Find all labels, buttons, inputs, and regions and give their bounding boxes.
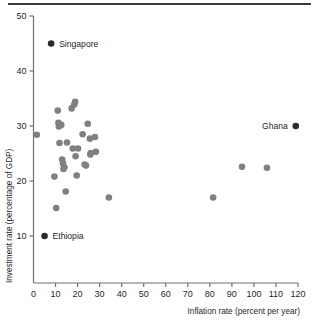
scatter-plot-figure: 10203040500102030405060708090100110120 S… xyxy=(0,0,318,320)
x-axis-tick-label: 90 xyxy=(227,289,237,299)
axes: 10203040500102030405060708090100110120 xyxy=(16,11,305,299)
x-axis-tick-label: 70 xyxy=(183,289,193,299)
data-point xyxy=(51,173,58,180)
x-axis-tick-label: 110 xyxy=(269,289,283,299)
data-point xyxy=(62,188,69,195)
data-point xyxy=(72,99,79,106)
data-point xyxy=(73,172,80,179)
x-axis-tick-label: 120 xyxy=(290,289,305,299)
data-point xyxy=(64,139,71,146)
data-point xyxy=(83,162,90,169)
data-point xyxy=(106,194,113,201)
x-axis-tick-label: 0 xyxy=(31,289,36,299)
data-point-label: Singapore xyxy=(59,39,98,49)
x-axis-title: Inflation rate (percent per year) xyxy=(188,307,301,316)
y-axis-tick-label: 10 xyxy=(16,231,26,241)
data-point xyxy=(61,164,68,171)
data-point xyxy=(210,194,217,201)
y-axis-tick-label: 20 xyxy=(16,176,26,186)
data-point-label: Ethiopia xyxy=(53,231,84,241)
data-point xyxy=(53,205,60,212)
x-axis-tick-label: 10 xyxy=(51,289,61,299)
data-point xyxy=(239,163,246,170)
scatter-plot-canvas: 10203040500102030405060708090100110120 S… xyxy=(0,0,318,320)
y-axis-tick-label: 30 xyxy=(16,121,26,131)
data-point xyxy=(84,121,91,128)
data-point xyxy=(264,165,271,172)
data-point xyxy=(54,107,61,114)
data-points xyxy=(34,40,300,239)
data-point xyxy=(75,145,82,152)
data-point xyxy=(58,122,65,129)
data-point xyxy=(79,131,86,138)
data-point xyxy=(41,233,48,240)
data-point xyxy=(72,153,79,160)
x-axis-tick-label: 100 xyxy=(246,289,261,299)
data-point xyxy=(48,40,55,47)
data-point xyxy=(93,149,100,156)
data-point-label: Ghana xyxy=(262,121,288,131)
y-axis-tick-label: 40 xyxy=(16,66,26,76)
x-axis-tick-label: 50 xyxy=(139,289,149,299)
x-axis-tick-label: 80 xyxy=(205,289,215,299)
data-point xyxy=(34,132,41,139)
x-axis-tick-label: 40 xyxy=(117,289,127,299)
data-point xyxy=(56,140,63,147)
data-point xyxy=(92,134,99,141)
x-axis-tick-label: 20 xyxy=(73,289,83,299)
y-axis-tick-label: 50 xyxy=(16,11,26,21)
x-axis-tick-label: 30 xyxy=(95,289,105,299)
x-axis-tick-label: 60 xyxy=(161,289,171,299)
data-point xyxy=(292,123,299,130)
y-axis-title: Investment rate (percentage of GDP) xyxy=(5,148,14,283)
